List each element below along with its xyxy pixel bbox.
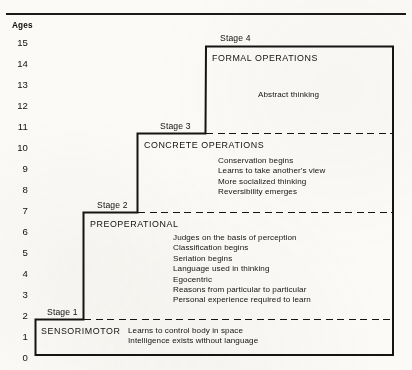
detail-line: Abstract thinking — [258, 90, 319, 100]
staircase-path — [36, 47, 394, 356]
detail-line: Seriation begins — [173, 254, 311, 264]
stage-details-1: Learns to control body in space Intellig… — [128, 326, 258, 347]
stage-heading-2: PREOPERATIONAL — [90, 219, 178, 229]
detail-line: Reversibility emerges — [218, 187, 325, 197]
stage-details-4: Abstract thinking — [258, 90, 319, 100]
piaget-stages-figure: The Developing Person Through the Life S… — [0, 0, 412, 370]
stage-tag-2: Stage 2 — [97, 200, 128, 210]
detail-line: Learns to take another's view — [218, 166, 325, 176]
detail-line: Personal experience required to learn — [173, 295, 311, 305]
detail-line: More socialized thinking — [218, 177, 325, 187]
detail-line: Judges on the basis of perception — [173, 233, 311, 243]
detail-line: Intelligence exists without language — [128, 336, 258, 346]
stage-details-3: Conservation begins Learns to take anoth… — [218, 156, 325, 198]
stage-heading-4: FORMAL OPERATIONS — [212, 53, 318, 63]
detail-line: Reasons from particular to particular — [173, 285, 311, 295]
stage-tag-4: Stage 4 — [220, 33, 251, 43]
detail-line: Classification begins — [173, 243, 311, 253]
stage-heading-3: CONCRETE OPERATIONS — [144, 140, 264, 150]
detail-line: Learns to control body in space — [128, 326, 258, 336]
stage-details-2: Judges on the basis of perception Classi… — [173, 233, 311, 306]
stage-heading-1: SENSORIMOTOR — [41, 326, 120, 336]
stage-tag-1: Stage 1 — [47, 307, 78, 317]
detail-line: Conservation begins — [218, 156, 325, 166]
stage-tag-3: Stage 3 — [160, 121, 191, 131]
detail-line: Language used in thinking — [173, 264, 311, 274]
detail-line: Egocentric — [173, 275, 311, 285]
